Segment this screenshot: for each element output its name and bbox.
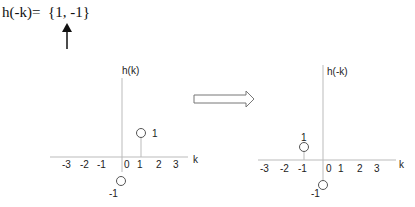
x-axis-label: k bbox=[399, 159, 405, 170]
tick-label: 2 bbox=[357, 163, 363, 174]
tick-label: -3 bbox=[260, 163, 269, 174]
point-value-label: -1 bbox=[109, 188, 118, 199]
right-hollow-arrow-icon bbox=[194, 91, 254, 107]
tick-label: -1 bbox=[97, 159, 106, 170]
tick-label: -2 bbox=[280, 163, 289, 174]
tick-label: 2 bbox=[156, 159, 162, 170]
sample-point bbox=[137, 129, 146, 138]
diagram-canvas: h(k) k -3 -2 -1 0 1 2 3 1 -1 h(-k) k -3 … bbox=[0, 0, 415, 207]
point-value-label: 1 bbox=[301, 132, 307, 143]
tick-label: -3 bbox=[62, 159, 71, 170]
point-value-label: 1 bbox=[152, 128, 158, 139]
tick-label: -2 bbox=[80, 159, 89, 170]
tick-label: -1 bbox=[298, 163, 307, 174]
tick-label: 1 bbox=[338, 163, 344, 174]
left-plot: h(k) k -3 -2 -1 0 1 2 3 1 -1 bbox=[50, 65, 199, 199]
tick-label: 3 bbox=[374, 163, 380, 174]
x-axis-label: k bbox=[193, 154, 199, 165]
sample-point bbox=[117, 177, 126, 186]
right-plot: h(-k) k -3 -2 -1 0 1 2 3 1 -1 bbox=[258, 65, 405, 199]
tick-label: 0 bbox=[326, 163, 332, 174]
tick-label: 0 bbox=[124, 159, 130, 170]
up-arrow-icon bbox=[62, 23, 72, 49]
tick-label: 1 bbox=[137, 159, 143, 170]
tick-label: 3 bbox=[173, 159, 179, 170]
sample-point bbox=[300, 143, 309, 152]
y-axis-label: h(-k) bbox=[327, 66, 348, 77]
y-axis-label: h(k) bbox=[122, 65, 139, 76]
point-value-label: -1 bbox=[311, 188, 320, 199]
